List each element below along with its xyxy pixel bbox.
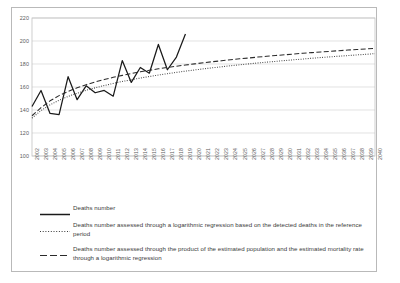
x-axis-tick-label: 2027 [260, 148, 266, 160]
x-axis-tick-label: 2030 [287, 148, 293, 160]
y-axis-tick-label: 180 [11, 61, 29, 67]
plot-area: 100120140160180200220 [12, 8, 378, 204]
x-axis-tick-label: 2020 [196, 148, 202, 160]
legend-label: Deaths number assessed through the produ… [73, 245, 373, 262]
x-axis-tick-label: 2039 [368, 148, 374, 160]
gridlines [32, 18, 375, 156]
x-axis-tick-label: 2012 [124, 148, 130, 160]
x-axis-tick-label: 2008 [88, 148, 94, 160]
x-axis-tick-label: 2014 [142, 148, 148, 160]
chart-container: 100120140160180200220 200220032004200520… [11, 7, 377, 272]
x-axis-tick-label: 2023 [223, 148, 229, 160]
legend-item: Deaths number assessed through a logarit… [40, 221, 378, 238]
y-axis-tick-label: 120 [11, 130, 29, 136]
x-axis-tick-label: 2003 [43, 148, 49, 160]
x-axis-tick-label: 2035 [332, 148, 338, 160]
series-layer [32, 34, 375, 118]
legend-swatch-dotted-icon [40, 222, 70, 231]
x-axis-tick-label: 2036 [341, 148, 347, 160]
x-axis-tick-label: 2005 [61, 148, 67, 160]
legend-item: Deaths number assessed through the produ… [40, 245, 378, 262]
x-axis-tick-label: 2025 [242, 148, 248, 160]
y-axis-tick-label: 160 [11, 84, 29, 90]
x-axis-tick-label: 2031 [296, 148, 302, 160]
x-axis-tick-label: 2015 [151, 148, 157, 160]
x-axis-tick-label: 2016 [160, 148, 166, 160]
x-axis-tick-label: 2019 [187, 148, 193, 160]
x-axis-tick-label: 2022 [214, 148, 220, 160]
chart-legend: Deaths numberDeaths number assessed thro… [40, 204, 378, 269]
legend-label: Deaths number [73, 204, 115, 213]
x-axis-tick-label: 2018 [178, 148, 184, 160]
x-axis-tick-label: 2024 [232, 148, 238, 160]
y-axis-tick-label: 220 [11, 15, 29, 21]
plot-svg [12, 8, 378, 204]
x-axis-tick-label: 2021 [205, 148, 211, 160]
x-axis-tick-label: 2006 [70, 148, 76, 160]
x-axis-tick-label: 2040 [377, 148, 383, 160]
x-axis-tick-label: 2013 [133, 148, 139, 160]
x-axis-tick-label: 2028 [269, 148, 275, 160]
x-axis-tick-label: 2011 [115, 148, 121, 160]
y-axis-tick-label: 140 [11, 107, 29, 113]
y-axis-tick-label: 100 [11, 153, 29, 159]
legend-label: Deaths number assessed through a logarit… [73, 221, 373, 238]
x-axis-tick-label: 2007 [79, 148, 85, 160]
series-line-3 [32, 48, 375, 115]
y-axis-tick-label: 200 [11, 38, 29, 44]
x-axis-tick-label: 2034 [323, 148, 329, 160]
x-axis-tick-label: 2002 [34, 148, 40, 160]
x-axis-tick-label: 2037 [350, 148, 356, 160]
x-axis-tick-label: 2033 [314, 148, 320, 160]
x-axis-tick-label: 2038 [359, 148, 365, 160]
x-axis-tick-label: 2026 [251, 148, 257, 160]
x-axis-tick-label: 2029 [278, 148, 284, 160]
legend-swatch-dashed-icon [40, 246, 70, 255]
x-axis-tick-label: 2017 [169, 148, 175, 160]
legend-swatch-solid-icon [40, 205, 70, 214]
x-axis-tick-label: 2032 [305, 148, 311, 160]
x-axis-tick-label: 2010 [106, 148, 112, 160]
x-axis-tick-label: 2009 [97, 148, 103, 160]
legend-item: Deaths number [40, 204, 378, 214]
x-axis-tick-label: 2004 [52, 148, 58, 160]
